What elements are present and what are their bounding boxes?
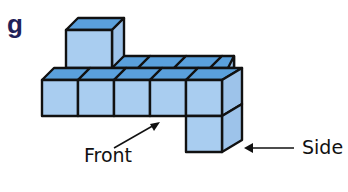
side-arrow [244,143,294,153]
side-annotation: Side [302,136,343,158]
hanging-cube [186,116,222,152]
top-cube [66,18,124,68]
front-row-cubes [42,80,222,116]
right-side-faces [222,68,242,152]
front-annotation: Front [84,144,132,166]
front-row-top-faces [42,68,242,80]
cube-structure-diagram [0,0,348,192]
